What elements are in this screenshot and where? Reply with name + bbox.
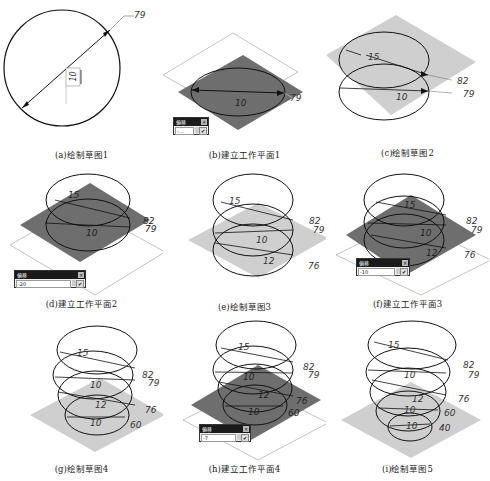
dim-label: 12 [426, 248, 437, 258]
caption-h: (h)建立工作平面4 [163, 462, 326, 474]
ok-check-icon[interactable]: ✔ [76, 280, 84, 288]
offset-input[interactable]: -… [175, 127, 194, 135]
workplane3-diagram [326, 160, 489, 320]
dim-label: 76 [296, 396, 307, 406]
dim-label: 82 [463, 360, 474, 370]
offset-dialog[interactable]: 偏移✕ -7✔ [199, 424, 251, 442]
offset-dialog[interactable]: 偏移✕ -…✔ [173, 117, 209, 135]
dim-label: 10 [86, 228, 97, 238]
dim-label: 82 [457, 76, 468, 86]
dim-label: 76 [464, 250, 475, 260]
dialog-titlebar[interactable]: 偏移✕ [174, 118, 208, 126]
dim-label: 60 [288, 408, 299, 418]
caption-g: (g)绘制草图4 [0, 462, 163, 474]
caption-c: (c)绘制草图2 [326, 146, 489, 158]
offset-input[interactable]: -20 [16, 280, 71, 288]
dim-label: 10 [396, 92, 407, 102]
dim-label: 15 [229, 196, 240, 206]
dim-label: 76 [458, 394, 469, 404]
panel-e: 15 82 79 10 12 76 (e)绘制草图3 [163, 160, 326, 320]
offset-dialog[interactable]: 偏移✕ -10✔ [356, 258, 410, 276]
panel-b: 79 10 偏移✕ -…✔ (b)建立工作平面1 [163, 0, 326, 160]
ok-check-icon[interactable]: ✔ [199, 127, 207, 135]
panel-f: 15 82 79 10 12 76 偏移✕ -10✔ (f)建立工作平面3 [326, 160, 489, 320]
ok-check-icon[interactable]: ✔ [400, 268, 408, 276]
dialog-titlebar[interactable]: 偏移✕ [357, 259, 409, 267]
dim-label: 12 [258, 390, 269, 400]
dim-label: 15 [77, 348, 88, 358]
dim-label: 10 [235, 98, 246, 108]
panel-d: 15 82 79 10 偏移✕ -20✔ (d)建立工作平面2 [0, 160, 163, 320]
sketch1-diagram [0, 0, 163, 160]
dim-label: 12 [412, 394, 423, 404]
dim-label: 79 [471, 225, 482, 235]
caption-e: (e)绘制草图3 [163, 300, 326, 312]
dim-label: 15 [404, 200, 415, 210]
dim-label: 15 [238, 342, 249, 352]
caption-b: (b)建立工作平面1 [163, 148, 326, 160]
caption-a: (a)绘制草图1 [0, 148, 163, 160]
dim-label: 12 [263, 256, 274, 266]
dim-label: 15 [368, 52, 379, 62]
dim-label: 76 [145, 405, 156, 415]
close-icon[interactable]: ✕ [243, 426, 249, 432]
dim-label: 10 [404, 405, 415, 415]
dim-label: 10 [406, 421, 417, 431]
dialog-title: 偏移 [176, 118, 186, 126]
dim-label: 60 [130, 420, 141, 430]
panel-i: 15 82 79 10 12 76 10 60 10 40 (i)绘制草图5 [326, 320, 489, 480]
dim-label: 15 [68, 190, 79, 200]
dim-label: 10 [90, 380, 101, 390]
close-icon[interactable]: ✕ [402, 260, 408, 266]
dim-label: 10 [404, 370, 415, 380]
dim-label: 79 [148, 378, 159, 388]
dim-label: 76 [308, 261, 319, 271]
sketch4-diagram [0, 320, 163, 481]
dim-label: 60 [444, 408, 455, 418]
close-icon[interactable]: ✕ [78, 272, 84, 278]
dim-label: 10 [256, 235, 267, 245]
panel-a: 79 10 (a)绘制草图1 [0, 0, 163, 160]
offset-input[interactable]: -10 [358, 268, 395, 276]
caption-f: (f)建立工作平面3 [326, 297, 489, 309]
workplane1-diagram [163, 0, 326, 160]
dim-label: 40 [439, 423, 450, 433]
ok-check-icon[interactable]: ✔ [241, 434, 249, 442]
panel-h: 15 82 79 10 12 76 10 60 偏移✕ -7✔ (h)建立工作平… [163, 320, 326, 480]
dim-label: 12 [95, 400, 106, 410]
panel-g: 15 82 79 10 12 76 10 60 (g)绘制草图4 [0, 320, 163, 480]
dim-label: 79 [290, 93, 301, 103]
dim-label: 79 [313, 225, 324, 235]
offset-input[interactable]: -7 [201, 434, 236, 442]
dim-label: 15 [388, 340, 399, 350]
dim-label: 10 [243, 372, 254, 382]
dim-label: 79 [463, 89, 474, 99]
dim-label: 79 [145, 224, 156, 234]
caption-i: (i)绘制草图5 [326, 462, 489, 474]
dim-label: 79 [308, 370, 319, 380]
dim-label: 79 [134, 10, 145, 20]
dim-label: 10 [69, 71, 78, 81]
caption-d: (d)建立工作平面2 [0, 297, 163, 309]
dialog-title: 偏移 [17, 271, 27, 279]
panel-c: 15 82 79 10 (c)绘制草图2 [326, 0, 489, 160]
dialog-titlebar[interactable]: 偏移✕ [15, 271, 85, 279]
dim-label: 10 [420, 228, 431, 238]
workplane2-diagram [0, 160, 163, 320]
dialog-titlebar[interactable]: 偏移✕ [200, 425, 250, 433]
dim-label: 10 [248, 407, 259, 417]
offset-dialog[interactable]: 偏移✕ -20✔ [14, 270, 86, 288]
dim-label: 10 [90, 418, 101, 428]
dialog-title: 偏移 [202, 425, 212, 433]
dim-label: 79 [468, 370, 479, 380]
dialog-title: 偏移 [359, 259, 369, 267]
close-icon[interactable]: ✕ [201, 119, 207, 125]
sketch3-diagram [163, 160, 326, 320]
